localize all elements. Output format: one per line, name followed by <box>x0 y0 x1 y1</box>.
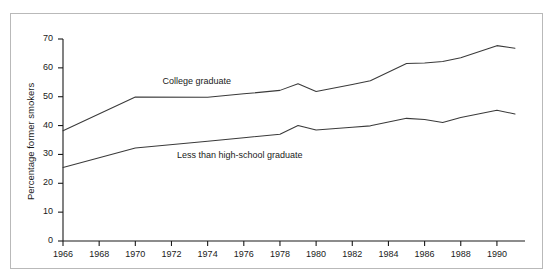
series-line-0 <box>63 46 515 131</box>
x-tick-label: 1970 <box>123 249 147 259</box>
chart-frame: Percentage former smokers 01020304050607… <box>10 13 543 269</box>
x-tick-label: 1966 <box>51 249 75 259</box>
axes-group <box>58 39 525 246</box>
chart-plot-area <box>11 14 544 270</box>
x-tick-label: 1988 <box>449 249 473 259</box>
y-tick-label: 30 <box>43 148 53 158</box>
x-tick-label: 1980 <box>304 249 328 259</box>
y-axis-title: Percentage former smokers <box>25 83 36 200</box>
x-tick-label: 1986 <box>413 249 437 259</box>
y-tick-label: 10 <box>43 206 53 216</box>
x-tick-label: 1968 <box>87 249 111 259</box>
x-tick-label: 1972 <box>159 249 183 259</box>
y-tick-label: 70 <box>43 33 53 43</box>
series-annotation-1: Less than high-school graduate <box>177 150 303 160</box>
x-tick-label: 1974 <box>196 249 220 259</box>
x-tick-label: 1976 <box>232 249 256 259</box>
x-tick-label: 1982 <box>340 249 364 259</box>
y-tick-label: 50 <box>43 91 53 101</box>
y-tick-label: 40 <box>43 120 53 130</box>
x-tick-label: 1978 <box>268 249 292 259</box>
x-tick-label: 1984 <box>376 249 400 259</box>
chart-figure: Percentage former smokers 01020304050607… <box>0 0 554 280</box>
y-tick-label: 20 <box>43 177 53 187</box>
y-tick-label: 0 <box>48 235 53 245</box>
series-annotation-0: College graduate <box>162 76 231 86</box>
y-tick-label: 60 <box>43 62 53 72</box>
x-tick-label: 1990 <box>485 249 509 259</box>
